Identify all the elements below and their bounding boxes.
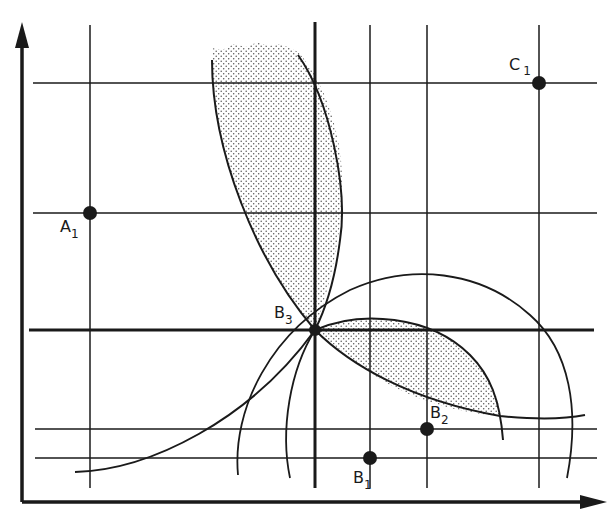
s-curve [75, 330, 585, 472]
upper-lens-region [212, 42, 342, 330]
point-B1 [363, 451, 377, 465]
geometric-diagram: A1 C1 B3 B2 B1 [0, 0, 614, 514]
point-B3 [309, 324, 321, 336]
point-A1 [83, 206, 97, 220]
right-lens-region [315, 319, 500, 416]
point-B2 [420, 422, 434, 436]
label-B3: B3 [274, 303, 293, 327]
label-A1: A1 [60, 217, 79, 241]
point-C1 [532, 76, 546, 90]
label-C1: C1 [509, 55, 531, 78]
y-axis-arrow-icon [15, 22, 29, 48]
medium-arc-left [286, 330, 315, 478]
stippled-regions [75, 42, 585, 472]
x-axis-arrow-icon [580, 495, 607, 509]
label-B1: B1 [353, 468, 372, 492]
